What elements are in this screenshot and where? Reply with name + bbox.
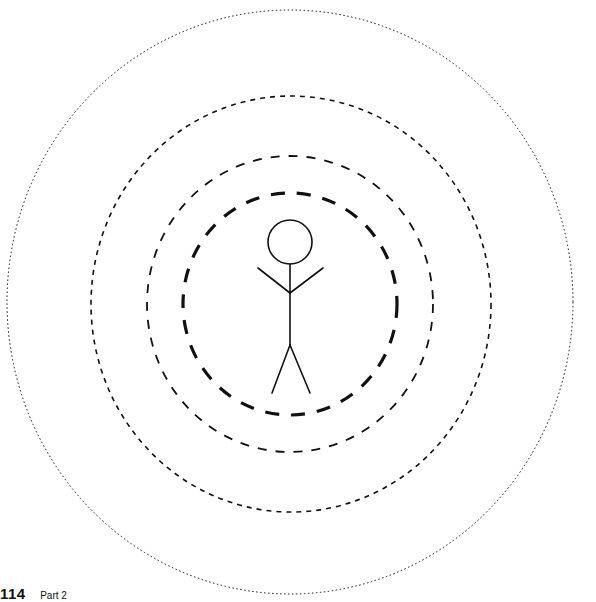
stick-figure-right-leg	[290, 345, 310, 393]
stick-figure	[258, 220, 323, 393]
stick-figure-left-arm	[258, 268, 290, 293]
page-number: 114	[0, 585, 26, 602]
stick-figure-right-arm	[290, 268, 323, 293]
stick-figure-head	[268, 220, 312, 264]
stick-figure-left-leg	[272, 345, 290, 393]
section-label: Part 2	[40, 590, 67, 601]
page-footer: 114 Part 2	[0, 586, 67, 602]
third-fine-dashed-ring	[91, 96, 491, 512]
